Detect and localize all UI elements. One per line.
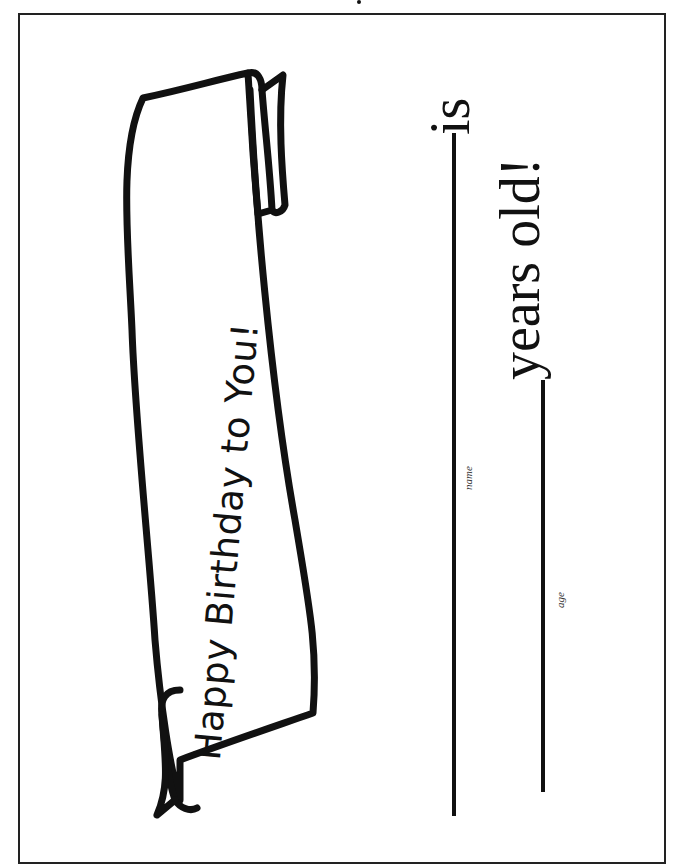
- name-field-line[interactable]: [452, 133, 456, 816]
- age-field-line[interactable]: [541, 380, 545, 792]
- years-old-text: years old!: [488, 158, 552, 380]
- name-field-label: name: [462, 466, 474, 490]
- ribbon-banner-icon: [0, 0, 675, 866]
- age-field-label: age: [554, 592, 566, 608]
- is-text: is: [418, 98, 482, 135]
